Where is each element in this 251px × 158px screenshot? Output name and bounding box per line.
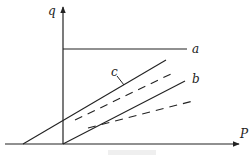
line-b — [63, 81, 185, 144]
line-c-dashed — [75, 72, 175, 120]
y-axis-label: q — [48, 4, 56, 18]
q-p-diagram: q P a c b — [0, 0, 251, 158]
line-b-label: b — [192, 72, 200, 86]
x-axis-label: P — [239, 127, 249, 141]
caption-smudge — [108, 150, 156, 155]
line-c-label: c — [111, 65, 118, 79]
line-c-leader — [117, 76, 124, 85]
line-b-dashed — [88, 101, 193, 128]
line-a-label: a — [192, 42, 199, 56]
